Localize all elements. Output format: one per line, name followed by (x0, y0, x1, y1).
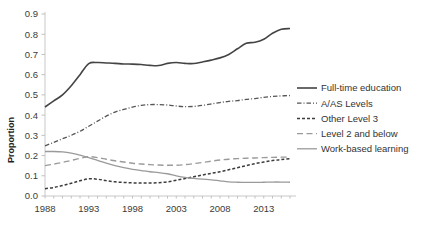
x-tick-label: 2003 (166, 203, 187, 214)
y-tick-label: 0.4 (25, 110, 38, 121)
series-line (45, 151, 290, 182)
series-line (45, 96, 290, 146)
y-tick-label: 0.1 (25, 170, 38, 181)
y-axis-title: Proportion (6, 117, 16, 163)
x-tick-label: 1998 (122, 203, 143, 214)
chart-legend: Full-time educationA/AS LevelsOther Leve… (297, 82, 408, 154)
y-tick-label: 0.3 (25, 130, 38, 141)
legend-item-label: A/AS Levels (321, 98, 373, 109)
y-tick-label: 0.8 (25, 29, 38, 40)
x-tick-label: 1993 (78, 203, 99, 214)
legend-item-label: Other Level 3 (321, 113, 378, 124)
series-line (45, 29, 290, 107)
legend-item-label: Level 2 and below (321, 128, 398, 139)
chart-container: 0.00.10.20.30.40.50.60.70.80.9 198819931… (0, 0, 433, 245)
axis-lines (42, 12, 297, 199)
y-tick-label: 0.9 (25, 8, 38, 19)
y-tick-label: 0.2 (25, 150, 38, 161)
y-axis-tick-labels: 0.00.10.20.30.40.50.60.70.80.9 (25, 8, 38, 201)
y-tick-label: 0.0 (25, 190, 38, 201)
line-chart: 0.00.10.20.30.40.50.60.70.80.9 198819931… (0, 0, 433, 245)
y-tick-label: 0.6 (25, 69, 38, 80)
x-tick-label: 2008 (209, 203, 230, 214)
legend-item-label: Work-based learning (321, 143, 408, 154)
y-tick-label: 0.7 (25, 49, 38, 60)
x-axis-tick-labels: 198819931998200320082013 (34, 203, 274, 214)
x-tick-label: 1988 (34, 203, 55, 214)
series-lines (45, 29, 290, 189)
y-tick-label: 0.5 (25, 89, 38, 100)
legend-item-label: Full-time education (321, 82, 401, 93)
x-tick-label: 2013 (253, 203, 274, 214)
